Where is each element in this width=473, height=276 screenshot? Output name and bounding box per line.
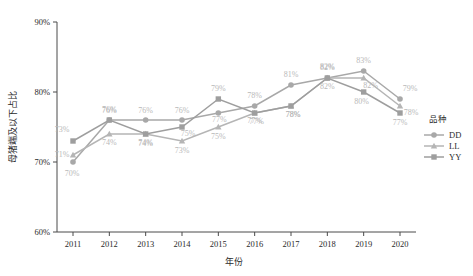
- y-tick-label: 60%: [34, 227, 50, 237]
- data-label-YY-2015: 79%: [211, 84, 226, 93]
- data-label-DD-2015: 77%: [212, 115, 227, 124]
- data-label-YY-2017: 78%: [286, 110, 301, 119]
- x-tick-label: 2020: [392, 239, 409, 249]
- data-label-LL-2011: 71%: [55, 150, 70, 159]
- series-DD-point-2016: [252, 103, 258, 109]
- series-YY-point-2015: [216, 96, 221, 101]
- series-DD-point-2013: [143, 117, 149, 123]
- data-label-DD-2017: 81%: [284, 70, 299, 79]
- x-tick-label: 2014: [174, 239, 192, 249]
- data-label-YY-2016: 77%: [249, 117, 264, 126]
- series-DD-point-2017: [288, 82, 294, 88]
- data-label-LL-2014: 73%: [175, 146, 190, 155]
- y-tick-label: 70%: [34, 157, 50, 167]
- series-DD-point-2014: [179, 117, 185, 123]
- y-tick-label: 90%: [34, 17, 50, 27]
- x-tick-label: 2016: [246, 239, 263, 249]
- series-LL-point-2011: [70, 152, 76, 158]
- data-label-YY-2014: 75%: [181, 129, 196, 138]
- legend-square-marker-YY: [431, 154, 436, 159]
- series-YY-point-2020: [397, 110, 402, 115]
- x-tick-label: 2013: [137, 239, 154, 249]
- x-tick-label: 2012: [101, 239, 118, 249]
- data-label-LL-2012: 74%: [102, 138, 117, 147]
- data-label-YY-2019: 80%: [354, 97, 369, 106]
- legend-title: 品种: [429, 114, 447, 124]
- x-tick-label: 2018: [319, 239, 336, 249]
- series-line-DD: [73, 71, 400, 162]
- line-chart: 60%70%80%90%2011201220132014201520162017…: [0, 0, 473, 276]
- series-YY-point-2019: [361, 89, 366, 94]
- series-YY-point-2013: [143, 131, 148, 136]
- data-label-DD-2016: 78%: [247, 91, 262, 100]
- data-label-YY-2020: 77%: [393, 118, 408, 127]
- x-tick-label: 2017: [283, 239, 300, 249]
- series-line-LL: [73, 78, 400, 155]
- legend-label-DD[interactable]: DD: [449, 130, 461, 140]
- data-label-DD-2013: 76%: [138, 106, 153, 115]
- data-label-LL-2020: 78%: [404, 108, 419, 117]
- data-label-YY-2011: 73%: [55, 125, 70, 134]
- series-YY-point-2012: [107, 117, 112, 122]
- data-label-DD-2020: 79%: [403, 84, 418, 93]
- x-axis-title: 年份: [225, 256, 243, 267]
- legend-circle-marker-DD: [431, 132, 437, 138]
- y-tick-label: 80%: [34, 87, 50, 97]
- chart-canvas: 60%70%80%90%2011201220132014201520162017…: [0, 0, 473, 276]
- data-label-DD-2011: 70%: [65, 169, 80, 178]
- data-label-LL-2018: 82%: [320, 62, 335, 71]
- data-label-LL-2019: 82%: [363, 81, 378, 90]
- series-DD-point-2020: [397, 96, 403, 102]
- series-YY-point-2011: [70, 138, 75, 143]
- data-label-DD-2014: 76%: [175, 106, 190, 115]
- series-DD-point-2019: [361, 68, 367, 74]
- data-label-YY-2018: 82%: [320, 82, 335, 91]
- series-DD-point-2011: [70, 159, 76, 165]
- legend-label-LL[interactable]: LL: [449, 141, 459, 151]
- data-label-YY-2013: 74%: [138, 139, 153, 148]
- x-tick-label: 2011: [65, 239, 82, 249]
- data-label-LL-2015: 75%: [211, 132, 226, 141]
- y-axis-title: 母猪端及以下占比: [7, 91, 18, 163]
- legend-label-YY[interactable]: YY: [449, 152, 461, 162]
- x-tick-label: 2015: [210, 239, 227, 249]
- series-YY-point-2018: [325, 75, 330, 80]
- series-YY-point-2017: [288, 103, 293, 108]
- data-label-YY-2012: 76%: [102, 105, 117, 114]
- x-tick-label: 2019: [355, 239, 372, 249]
- series-YY-point-2016: [252, 110, 257, 115]
- data-label-DD-2019: 83%: [356, 56, 371, 65]
